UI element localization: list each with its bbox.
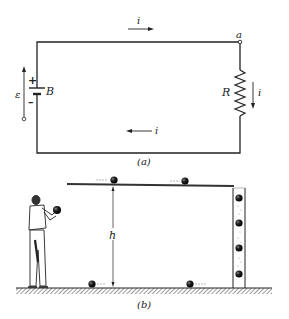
node-a-terminal bbox=[238, 40, 242, 44]
person-figure bbox=[28, 196, 61, 288]
ball-analogy-diagram: h (b) bbox=[16, 176, 272, 310]
current-label-bottom: i bbox=[155, 125, 158, 136]
ball bbox=[235, 194, 242, 201]
ground-hatch bbox=[16, 288, 272, 294]
upper-track bbox=[67, 183, 234, 187]
height-label: h bbox=[109, 229, 116, 242]
emf-arrow-icon bbox=[22, 66, 26, 121]
rolling-ball-top-2 bbox=[170, 177, 189, 184]
battery-label: B bbox=[45, 85, 54, 98]
ball bbox=[235, 244, 242, 251]
node-label: a bbox=[236, 29, 242, 40]
plus-sign: + bbox=[28, 74, 37, 87]
rolling-ball-ground-2 bbox=[186, 280, 206, 287]
current-label-right: i bbox=[258, 87, 261, 98]
current-arrow-left-icon bbox=[126, 129, 152, 133]
circuit-diagram: + – B ε i a R i i bbox=[15, 15, 261, 167]
resistor-label: R bbox=[221, 86, 230, 99]
current-arrow-right-icon bbox=[128, 27, 154, 31]
minus-sign: – bbox=[28, 96, 34, 109]
circuit-wire bbox=[37, 42, 240, 153]
resistor-symbol bbox=[235, 70, 245, 116]
emf-label: ε bbox=[15, 89, 20, 100]
rolling-ball-ground-1 bbox=[88, 280, 105, 287]
ball bbox=[235, 219, 242, 226]
rolling-ball-top-1 bbox=[96, 176, 118, 183]
current-arrow-down-icon bbox=[251, 82, 255, 109]
caption-b: (b) bbox=[137, 299, 151, 310]
caption-a: (a) bbox=[137, 156, 151, 167]
current-label-top: i bbox=[137, 15, 140, 26]
ball bbox=[235, 270, 242, 277]
figure-canvas: + – B ε i a R i i bbox=[0, 0, 289, 319]
